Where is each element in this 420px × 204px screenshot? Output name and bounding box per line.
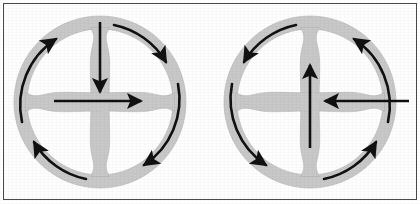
diagram-stage — [0, 0, 420, 204]
right-wheel — [224, 16, 409, 188]
wheel-diagram — [0, 0, 420, 204]
left-wheel — [14, 16, 186, 188]
